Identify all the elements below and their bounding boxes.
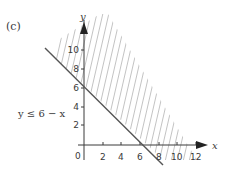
y-tick-6: 6 xyxy=(73,83,79,93)
part-label: (c) xyxy=(6,20,21,33)
x-tick-12: 12 xyxy=(190,152,201,162)
x-tick-6: 6 xyxy=(137,152,143,162)
y-tick-4: 4 xyxy=(73,102,79,112)
y-tick-2: 2 xyxy=(73,120,79,130)
x-tick-2: 2 xyxy=(100,152,106,162)
y-tick-10: 10 xyxy=(68,45,80,55)
inequality-graph: (c) y x 0 2 4 6 8 10 12 2 4 6 8 10 y ≤ 6… xyxy=(0,0,232,173)
y-tick-8: 8 xyxy=(73,64,79,74)
x-axis-label: x xyxy=(212,140,218,151)
y-axis-label: y xyxy=(79,11,86,22)
origin-label: 0 xyxy=(75,151,81,161)
x-tick-10: 10 xyxy=(171,152,183,162)
x-tick-4: 4 xyxy=(118,152,124,162)
x-axis-arrow-icon xyxy=(196,141,208,149)
y-axis xyxy=(81,20,84,160)
boundary-line xyxy=(45,48,163,165)
inequality-label: y ≤ 6 − x xyxy=(17,108,65,119)
x-tick-8: 8 xyxy=(156,152,162,162)
